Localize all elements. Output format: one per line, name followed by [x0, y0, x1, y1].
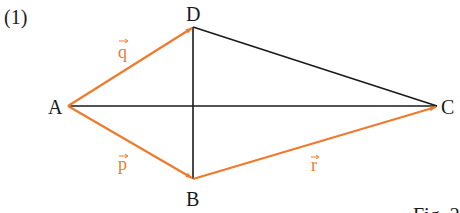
- vector-label-r: r: [311, 155, 319, 175]
- point-label-A: A: [48, 96, 63, 118]
- point-label-C: C: [441, 96, 454, 118]
- problem-number: (1): [4, 6, 27, 29]
- svg-text:r: r: [311, 155, 317, 175]
- kite-vector-diagram: (1) D A B C q p r Fig. 2: [0, 0, 460, 213]
- segment-DC: [193, 27, 437, 106]
- vector-q-arrow: [68, 28, 192, 106]
- figure-caption: Fig. 2: [413, 204, 460, 213]
- vector-label-q: q: [118, 39, 128, 62]
- point-label-D: D: [186, 3, 200, 25]
- vector-p-arrow: [68, 106, 192, 178]
- vector-label-p: p: [118, 154, 128, 174]
- point-label-B: B: [186, 188, 199, 210]
- svg-text:q: q: [118, 42, 127, 62]
